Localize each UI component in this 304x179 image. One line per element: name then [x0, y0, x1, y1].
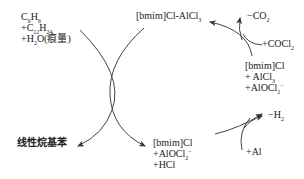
- reactant-water: +H2O(痕量): [21, 33, 71, 44]
- arrow-bottom-to-right: [215, 114, 262, 134]
- arrow-reactants-to-product: [78, 30, 115, 146]
- intermediate-bottom-label: [bmim]Cl +AlOCl2− +HCl: [153, 137, 192, 170]
- co2-out-label: −CO2: [247, 10, 270, 21]
- arrow-right-to-top: [210, 22, 252, 56]
- al-in-label: +Al: [246, 146, 262, 157]
- h2-out-label: −H2: [268, 109, 284, 120]
- cocl2-in-label: +COCl2: [262, 38, 294, 49]
- catalyst-top-label: [bmim]Cl-AlCl3: [136, 10, 201, 21]
- reactant-benzene: C6H6: [21, 11, 71, 22]
- intermediate-right-label: [bmim]Cl + AlCl3 +AlOCl2−: [245, 60, 284, 93]
- arrow-cocl2-in: [243, 34, 262, 45]
- reactants-label: C6H6 +C12H24 +H2O(痕量): [21, 11, 71, 44]
- product-label: 线性烷基苯: [17, 137, 67, 148]
- reactant-olefin: +C12H24: [21, 22, 71, 33]
- arrow-catalyst-to-intermediate: [110, 28, 145, 146]
